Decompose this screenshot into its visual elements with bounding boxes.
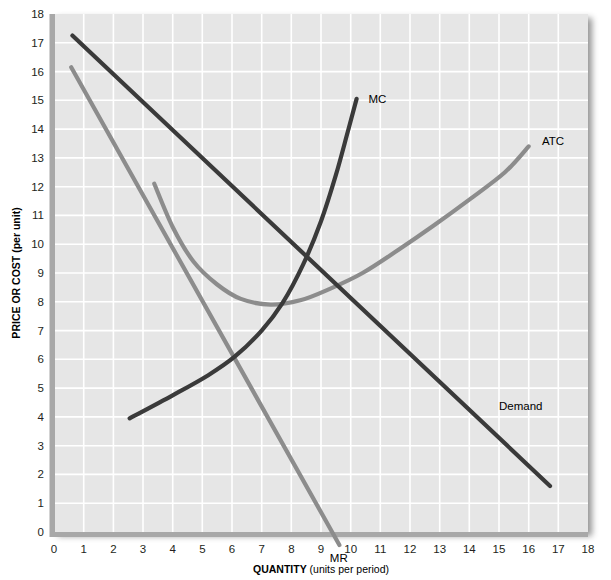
y-tick-label: 12: [31, 181, 44, 193]
x-tick-label: 14: [463, 543, 476, 555]
x-tick-label: 3: [140, 543, 146, 555]
x-tick-label: 9: [318, 543, 324, 555]
y-tick-label: 0: [38, 526, 44, 538]
y-axis-title: PRICE OR COST (per unit): [10, 207, 22, 338]
x-tick-label: 5: [199, 543, 205, 555]
x-tick-label: 1: [80, 543, 86, 555]
x-tick-label: 13: [433, 543, 446, 555]
mc-label: MC: [368, 93, 386, 105]
y-tick-label: 1: [38, 497, 44, 509]
chart-svg: MC ATC Demand MR 01234567891011121314151…: [0, 0, 611, 580]
x-axis-line: [50, 532, 589, 537]
y-axis-line: [50, 14, 56, 532]
x-axis-title: QUANTITY (units per period): [253, 563, 389, 575]
y-tick-label: 7: [38, 325, 44, 337]
y-tick-label: 4: [38, 411, 45, 423]
x-tick-label: 8: [288, 543, 294, 555]
y-tick-label: 15: [31, 94, 44, 106]
x-tick-label: 10: [344, 543, 357, 555]
y-tick-label: 17: [31, 37, 44, 49]
x-tick-label: 12: [404, 543, 417, 555]
x-tick-label: 17: [552, 543, 565, 555]
y-tick-label: 10: [31, 238, 44, 250]
demand-label: Demand: [499, 400, 542, 412]
x-tick-label: 15: [493, 543, 506, 555]
y-tick-label: 5: [38, 382, 44, 394]
y-tick-label: 2: [38, 468, 44, 480]
x-tick-label: 0: [51, 543, 57, 555]
atc-label: ATC: [542, 135, 564, 147]
y-tick-label: 6: [38, 353, 44, 365]
x-tick-labels: 0123456789101112131415161718: [51, 543, 595, 555]
y-tick-label: 16: [31, 66, 44, 78]
y-tick-labels: 0123456789101112131415161718: [31, 8, 44, 538]
economics-cost-curve-figure: MC ATC Demand MR 01234567891011121314151…: [0, 0, 611, 580]
x-tick-label: 18: [582, 543, 595, 555]
x-tick-label: 7: [258, 543, 264, 555]
y-tick-label: 13: [31, 152, 44, 164]
y-tick-label: 8: [38, 296, 44, 308]
y-tick-label: 11: [32, 209, 44, 221]
y-tick-label: 9: [38, 267, 44, 279]
y-tick-label: 14: [31, 123, 44, 135]
x-tick-label: 6: [229, 543, 235, 555]
y-tick-label: 3: [38, 440, 44, 452]
y-tick-label: 18: [31, 8, 44, 20]
x-tick-label: 11: [374, 543, 386, 555]
x-tick-label: 4: [169, 543, 176, 555]
x-tick-label: 16: [522, 543, 535, 555]
x-tick-label: 2: [110, 543, 116, 555]
